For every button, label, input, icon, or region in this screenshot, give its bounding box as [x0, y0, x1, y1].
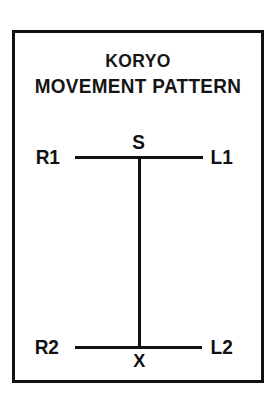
node-label-x-text: X [133, 351, 145, 370]
figure-root: KORYO MOVEMENT PATTERN R1 S L1 R2 X L2 [0, 0, 275, 412]
node-label-l2: L2 [211, 337, 233, 357]
node-label-s-text: S [133, 132, 146, 152]
title-line-primary: KORYO [25, 51, 251, 70]
diagram-frame: KORYO MOVEMENT PATTERN R1 S L1 R2 X L2 [12, 30, 264, 383]
figure-title: KORYO MOVEMENT PATTERN [15, 51, 261, 96]
title-line-secondary: MOVEMENT PATTERN [27, 75, 248, 96]
edge-center-vertical [138, 156, 141, 349]
node-label-l1: L1 [211, 147, 233, 167]
